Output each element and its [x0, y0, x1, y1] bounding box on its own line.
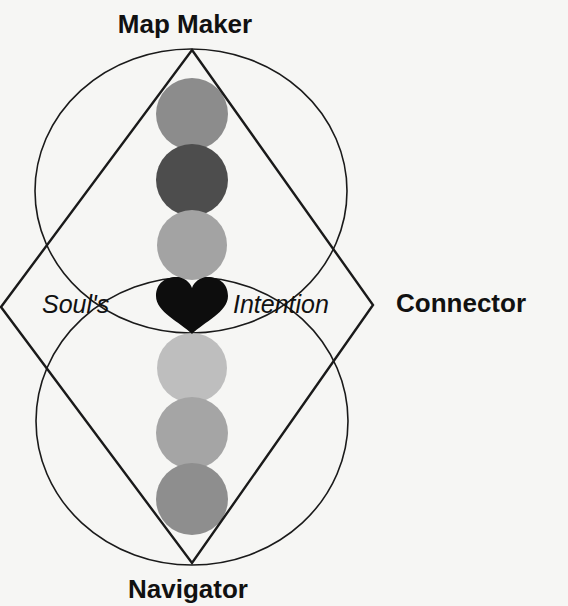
- lower-disc-2: [156, 397, 228, 469]
- label-map-maker: Map Maker: [118, 9, 252, 39]
- label-souls: Soul's: [42, 290, 109, 318]
- upper-disc-3: [157, 210, 227, 280]
- label-navigator: Navigator: [128, 574, 248, 604]
- soul-intention-diagram: Map Maker Connector Navigator Soul's Int…: [0, 0, 568, 606]
- lower-discs: [156, 333, 228, 535]
- label-connector: Connector: [396, 288, 526, 318]
- lower-disc-3: [156, 463, 228, 535]
- lower-disc-1: [157, 333, 227, 403]
- label-intention: Intention: [233, 290, 329, 318]
- upper-discs: [156, 78, 228, 280]
- upper-disc-2: [156, 144, 228, 216]
- upper-disc-1: [156, 78, 228, 150]
